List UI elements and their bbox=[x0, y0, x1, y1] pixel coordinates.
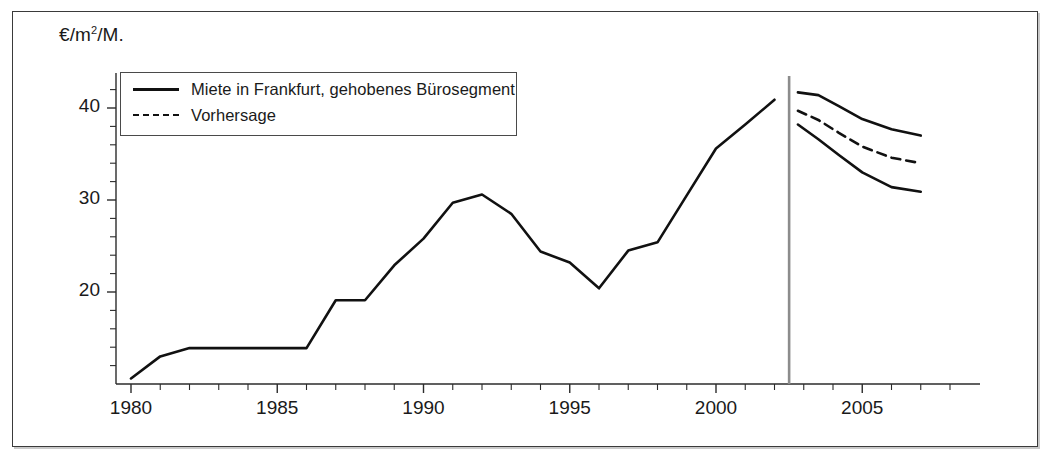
x-axis-tick-label: 1990 bbox=[389, 397, 459, 419]
x-axis-tick-label: 1980 bbox=[96, 397, 166, 419]
legend-swatch-dashed-icon bbox=[133, 109, 179, 121]
chart-plot-area bbox=[0, 0, 1050, 461]
x-axis-tick-label: 2005 bbox=[827, 397, 897, 419]
y-axis-tick-label: 20 bbox=[60, 279, 100, 301]
y-axis-tick-label: 30 bbox=[60, 187, 100, 209]
legend-swatch-solid-icon bbox=[133, 83, 179, 95]
legend-entry-1: Vorhersage bbox=[133, 104, 276, 126]
figure-root: €/m2/M. 203040 198019851990199520002005 … bbox=[0, 0, 1050, 461]
data-series-line-3 bbox=[798, 125, 921, 192]
x-axis-tick-label: 2000 bbox=[681, 397, 751, 419]
x-axis-tick-label: 1995 bbox=[535, 397, 605, 419]
legend-entry-0: Miete in Frankfurt, gehobenes Bürosegmen… bbox=[133, 78, 515, 100]
chart-legend: Miete in Frankfurt, gehobenes Bürosegmen… bbox=[120, 72, 517, 136]
legend-label-0: Miete in Frankfurt, gehobenes Bürosegmen… bbox=[191, 80, 515, 99]
data-series-line-0 bbox=[131, 100, 775, 379]
x-axis-tick-label: 1985 bbox=[242, 397, 312, 419]
y-axis-tick-label: 40 bbox=[60, 95, 100, 117]
legend-label-1: Vorhersage bbox=[191, 106, 276, 125]
data-series-line-1 bbox=[798, 92, 921, 135]
